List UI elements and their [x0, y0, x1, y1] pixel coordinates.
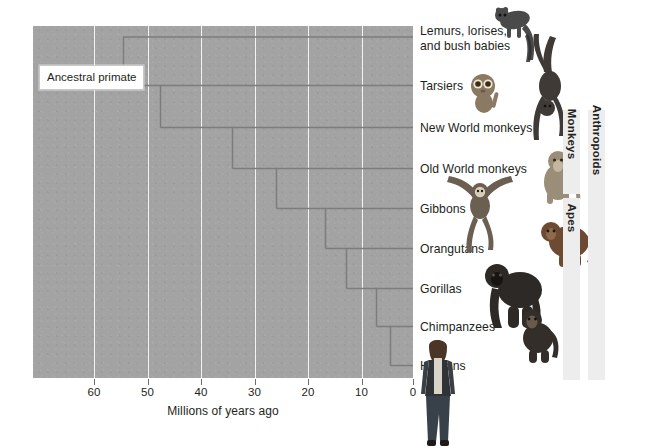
- chimpanzee-illustration: [512, 306, 564, 364]
- x-axis-title: Millions of years ago: [33, 404, 413, 418]
- tick-40: [201, 379, 202, 385]
- tick-30: [255, 379, 256, 385]
- taxon-label-tarsiers: Tarsiers: [420, 79, 463, 94]
- bracket-apes: Apes: [563, 198, 580, 380]
- tick-label-20: 20: [288, 386, 328, 398]
- tick-60: [94, 379, 95, 385]
- bracket-monkeys: Monkeys: [563, 110, 580, 194]
- human-illustration: [415, 338, 461, 448]
- tick-10: [362, 379, 363, 385]
- bracket-label-apes: Apes: [566, 204, 578, 233]
- tree-branches: [123, 37, 413, 366]
- primate-phylogeny-figure: Ancestral primate 60 50 40 30 20 10 0 Mi…: [0, 0, 653, 448]
- bracket-label-monkeys: Monkeys: [566, 109, 578, 160]
- tick-50: [148, 379, 149, 385]
- tick-0: [413, 379, 414, 385]
- taxon-label-new-world-monkeys: New World monkeys: [420, 121, 532, 136]
- tarsier-illustration: [465, 72, 505, 116]
- tick-label-40: 40: [181, 386, 221, 398]
- tick-20: [308, 379, 309, 385]
- tick-label-30: 30: [235, 386, 275, 398]
- gibbon-illustration: [443, 166, 517, 254]
- bracket-anthropoids: Anthropoids: [588, 110, 605, 380]
- tick-label-60: 60: [74, 386, 114, 398]
- bracket-label-anthropoids: Anthropoids: [591, 105, 603, 176]
- tick-label-10: 10: [342, 386, 382, 398]
- ancestral-primate-callout: Ancestral primate: [39, 65, 144, 90]
- taxon-label-gorillas: Gorillas: [420, 282, 462, 297]
- tick-label-50: 50: [128, 386, 168, 398]
